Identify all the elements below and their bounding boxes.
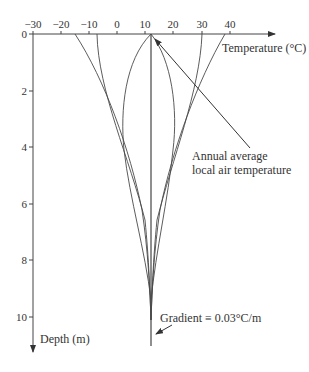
x-tick-label: 0	[114, 18, 120, 30]
curve-cold-transition	[97, 34, 151, 320]
y-tick-label: 8	[22, 254, 28, 266]
y-axis-ticks: 0246810	[16, 28, 33, 323]
annotation-line-2: local air temperature	[192, 163, 291, 177]
annotation-arrow	[155, 39, 250, 148]
x-tick-label: −10	[80, 18, 98, 30]
curve-warm-transition	[151, 34, 202, 320]
gradient-annotation: Gradient ≡ 0.03°C/m	[156, 311, 262, 334]
x-tick-label: 30	[197, 18, 209, 30]
x-tick-label: 10	[140, 18, 152, 30]
x-tick-label: −30	[24, 18, 42, 30]
curve-winter-extreme	[75, 34, 151, 320]
curve-spring	[123, 34, 151, 300]
y-tick-label: 6	[22, 198, 28, 210]
ground-temperature-diagram: −30−20−10010203040 Temperature (°C) 0246…	[0, 0, 309, 372]
x-tick-label: 20	[168, 18, 180, 30]
y-tick-label: 10	[16, 311, 28, 323]
annotation-line-1: Annual average	[192, 149, 268, 163]
temperature-curves	[75, 34, 225, 346]
y-axis: 0246810 Depth (m)	[16, 28, 90, 352]
y-tick-label: 0	[22, 28, 28, 40]
x-tick-label: 40	[225, 18, 237, 30]
x-axis-ticks: −30−20−10010203040	[24, 18, 236, 34]
y-tick-label: 2	[22, 85, 28, 97]
y-tick-label: 4	[22, 141, 28, 153]
x-axis-label: Temperature (°C)	[222, 41, 306, 55]
y-axis-label: Depth (m)	[40, 332, 90, 346]
x-tick-label: −20	[52, 18, 70, 30]
gradient-arrow	[156, 325, 172, 334]
gradient-label: Gradient ≡ 0.03°C/m	[160, 311, 262, 325]
x-axis: −30−20−10010203040 Temperature (°C)	[24, 18, 306, 55]
